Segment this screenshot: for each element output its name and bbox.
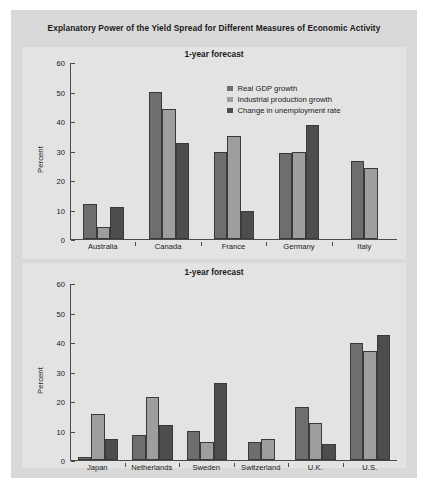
chart-top-y-axis-label: Percent	[36, 146, 45, 173]
y-tick-label: 30	[57, 368, 71, 377]
bar	[227, 136, 241, 239]
bar-group	[71, 63, 136, 239]
y-tick-mark	[71, 93, 75, 94]
bar	[162, 109, 176, 239]
bar-group	[125, 284, 179, 460]
bar-group	[180, 284, 234, 460]
x-tick-label: Netherlands	[125, 463, 180, 472]
x-tick-mark	[125, 463, 126, 467]
y-tick-mark	[71, 152, 75, 153]
bar	[214, 383, 228, 460]
x-tick-mark	[234, 463, 235, 467]
bar-group	[71, 284, 125, 460]
bar	[105, 439, 119, 460]
bar	[214, 152, 228, 239]
x-tick-mark	[266, 242, 267, 246]
y-tick-label: 40	[57, 118, 71, 127]
y-tick-label: 60	[57, 280, 71, 289]
y-tick-label: 50	[57, 88, 71, 97]
bar	[364, 168, 378, 239]
bar	[146, 397, 160, 460]
chart-top-subtitle: 1-year forecast	[22, 49, 406, 59]
bar	[241, 211, 255, 239]
y-tick-label: 30	[57, 147, 71, 156]
y-tick-mark	[71, 373, 75, 374]
bar	[78, 457, 92, 460]
y-tick-mark	[71, 314, 75, 315]
y-tick-label: 10	[57, 427, 71, 436]
legend-label: Real GDP growth	[238, 84, 298, 93]
x-tick-mark	[201, 242, 202, 246]
bar	[292, 152, 306, 239]
legend-item-change-in-unemployment-rate: Change in unemployment rate	[227, 105, 341, 116]
bar	[377, 335, 391, 460]
y-tick-label: 40	[57, 339, 71, 348]
bar	[149, 92, 163, 240]
y-tick-mark	[71, 432, 75, 433]
bar	[176, 143, 190, 239]
legend-swatch-icon	[227, 97, 233, 103]
y-tick-mark	[71, 122, 75, 123]
x-tick-label: Germany	[266, 242, 331, 251]
chart-bottom-subtitle: 1-year forecast	[22, 267, 406, 277]
chart-bottom: 1-year forecast Percent 0102030405060 Ja…	[22, 263, 406, 468]
x-tick-label: France	[201, 242, 266, 251]
y-tick-mark	[71, 343, 75, 344]
y-tick-mark	[71, 284, 75, 285]
bar	[351, 161, 365, 239]
x-tick-label: U.S.	[343, 463, 398, 472]
legend-item-industrial-production-growth: Industrial production growth	[227, 94, 341, 105]
y-tick-mark	[71, 211, 75, 212]
legend-swatch-icon	[227, 86, 233, 92]
x-tick-label: Italy	[332, 242, 397, 251]
legend-swatch-icon	[227, 108, 233, 114]
x-tick-label: Canada	[135, 242, 200, 251]
legend-label: Change in unemployment rate	[238, 106, 341, 115]
chart-top: 1-year forecast Percent 0102030405060 Au…	[22, 47, 406, 259]
x-tick-label: U.K.	[288, 463, 343, 472]
bar	[309, 423, 323, 460]
chart-bottom-x-axis: JapanNetherlandsSwedenSwitzerlandU.K.U.S…	[70, 463, 397, 472]
x-tick-mark	[288, 463, 289, 467]
y-tick-mark	[71, 63, 75, 64]
y-tick-mark	[71, 402, 75, 403]
y-tick-label: 20	[57, 177, 71, 186]
x-tick-mark	[332, 242, 333, 246]
bar	[159, 425, 173, 460]
y-tick-label: 10	[57, 206, 71, 215]
bar	[110, 207, 124, 239]
chart-top-x-axis: AustraliaCanadaFranceGermanyItaly	[70, 242, 397, 251]
x-tick-label: Japan	[70, 463, 125, 472]
bar-group	[332, 63, 397, 239]
bar	[279, 153, 293, 239]
x-tick-mark	[179, 463, 180, 467]
y-tick-mark	[71, 461, 75, 462]
chart-bottom-y-axis-label: Percent	[36, 367, 45, 394]
x-tick-mark	[343, 463, 344, 467]
figure-root: Explanatory Power of the Yield Spread fo…	[0, 0, 429, 491]
figure-panel: Explanatory Power of the Yield Spread fo…	[11, 10, 417, 478]
y-tick-label: 20	[57, 398, 71, 407]
bar	[295, 407, 309, 460]
x-tick-mark	[135, 242, 136, 246]
y-tick-mark	[71, 240, 75, 241]
bar	[363, 351, 377, 460]
bar	[200, 442, 214, 460]
bar	[187, 431, 201, 461]
legend-label: Industrial production growth	[238, 95, 332, 104]
x-tick-label: Australia	[70, 242, 135, 251]
chart-bottom-plot-area: 0102030405060	[70, 284, 397, 461]
x-tick-label: Switzerland	[234, 463, 289, 472]
bar-group	[343, 284, 397, 460]
bar	[306, 125, 320, 239]
bar-group	[136, 63, 201, 239]
bar	[132, 435, 146, 460]
x-tick-label: Sweden	[179, 463, 234, 472]
figure-title: Explanatory Power of the Yield Spread fo…	[11, 23, 417, 33]
bar	[350, 343, 364, 460]
bar	[322, 444, 336, 460]
bar	[91, 414, 105, 460]
chart-bottom-bar-groups	[71, 284, 397, 460]
y-tick-label: 50	[57, 309, 71, 318]
y-tick-mark	[71, 181, 75, 182]
